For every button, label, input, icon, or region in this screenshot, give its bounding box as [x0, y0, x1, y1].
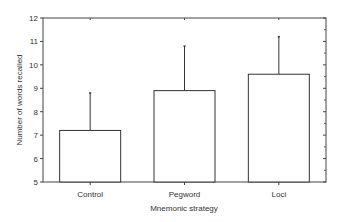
- y-tick-label: 11: [30, 37, 39, 46]
- y-tick-label: 5: [34, 178, 39, 187]
- y-axis-label: Number of words recalled: [15, 54, 24, 145]
- y-tick-label: 12: [29, 14, 38, 23]
- x-tick-label: Pegword: [169, 190, 201, 199]
- y-tick-label: 9: [34, 84, 39, 93]
- x-tick-label: Control: [77, 190, 103, 199]
- bar-control: [60, 130, 121, 182]
- y-tick-label: 8: [34, 108, 39, 117]
- y-tick-label: 10: [29, 61, 38, 70]
- y-tick-label: 7: [34, 131, 39, 140]
- x-axis-label: Mnemonic strategy: [150, 204, 218, 213]
- x-tick-label: Loci: [271, 190, 286, 199]
- bar-pegword: [154, 91, 215, 182]
- bars-group: [60, 37, 310, 182]
- bar-loci: [248, 74, 309, 182]
- y-tick-label: 6: [34, 155, 39, 164]
- bar-chart: 56789101112 ControlPegwordLoci Mnemonic …: [0, 0, 345, 222]
